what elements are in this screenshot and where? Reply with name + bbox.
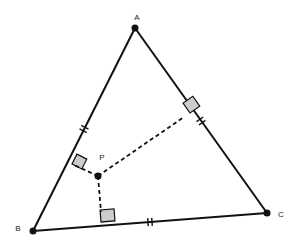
side-bc [33, 213, 267, 231]
label-a: A [134, 13, 140, 22]
perpendicular-p-ca [98, 117, 184, 176]
point-p [95, 173, 102, 180]
perpendicular-p-bc [98, 176, 101, 212]
vertex-b [30, 228, 37, 235]
vertex-a [132, 25, 139, 32]
side-ca [135, 28, 267, 213]
label-b: B [15, 224, 20, 233]
side-ab [33, 28, 135, 231]
triangle-diagram: A B C P [0, 0, 298, 250]
right-angle-marker-ab [72, 154, 87, 169]
label-p: P [99, 153, 104, 162]
label-c: C [278, 210, 284, 219]
perpendicular-p-ab [74, 165, 98, 176]
right-angle-marker-bc [100, 209, 115, 222]
vertex-c [264, 210, 271, 217]
